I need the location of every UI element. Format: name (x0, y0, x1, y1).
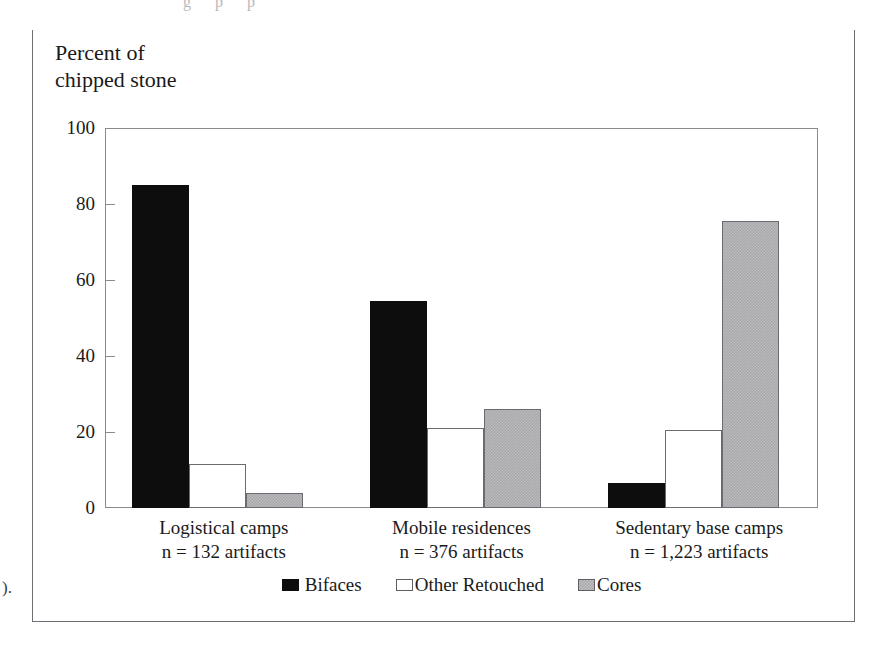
bar-cores-group-2 (484, 409, 541, 508)
y-axis-tick-label: 100 (43, 117, 95, 139)
y-axis-tick-mark (105, 280, 115, 281)
white-square-swatch (396, 579, 413, 591)
bar-cores-group-3 (722, 221, 779, 508)
legend-item-other-retouched[interactable]: Other Retouched (396, 574, 544, 596)
x-axis-group-count: n = 1,223 artifacts (580, 540, 818, 564)
y-axis-tick-label: 80 (43, 193, 95, 215)
gray-square-swatch (578, 579, 595, 591)
y-axis-tick-mark (105, 356, 115, 357)
y-axis-tick-label: 60 (43, 269, 95, 291)
y-axis-tick-label: 20 (43, 421, 95, 443)
x-axis-group-name: Sedentary base camps (580, 516, 818, 540)
chart-legend: BifacesOther RetouchedCores (105, 574, 818, 596)
legend-item-label: Cores (597, 574, 641, 596)
bar-other-retouched-group-3 (665, 430, 722, 508)
y-axis-tick-mark (105, 432, 115, 433)
x-axis-group-name: Mobile residences (343, 516, 581, 540)
x-axis-group-count: n = 376 artifacts (343, 540, 581, 564)
bar-other-retouched-group-2 (427, 428, 484, 508)
legend-item-cores[interactable]: Cores (578, 574, 641, 596)
bar-other-retouched-group-1 (189, 464, 246, 508)
x-axis-group-count: n = 132 artifacts (105, 540, 343, 564)
black-square-swatch (282, 579, 299, 591)
x-axis-group-label: Sedentary base campsn = 1,223 artifacts (580, 516, 818, 565)
bar-cores-group-1 (246, 493, 303, 508)
legend-item-label: Bifaces (305, 574, 362, 596)
bar-bifaces-group-1 (132, 185, 189, 508)
y-axis-tick-mark (105, 204, 115, 205)
bar-chart: 020406080100 Logistical campsn = 132 art… (0, 0, 878, 648)
x-axis-group-name: Logistical camps (105, 516, 343, 540)
bar-bifaces-group-2 (370, 301, 427, 508)
legend-item-label: Other Retouched (415, 574, 544, 596)
bar-bifaces-group-3 (608, 483, 665, 508)
x-axis-group-label: Logistical campsn = 132 artifacts (105, 516, 343, 565)
y-axis-tick-label: 0 (43, 497, 95, 519)
y-axis-tick-label: 40 (43, 345, 95, 367)
legend-item-bifaces[interactable]: Bifaces (282, 574, 362, 596)
x-axis-group-label: Mobile residencesn = 376 artifacts (343, 516, 581, 565)
